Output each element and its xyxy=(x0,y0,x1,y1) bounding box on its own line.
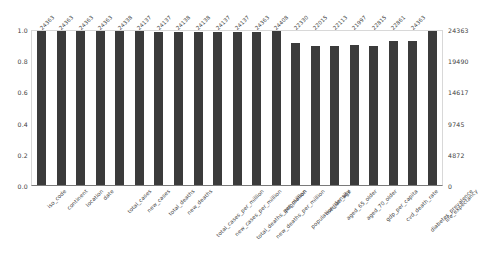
y-tick-left-1.0: 1.0 xyxy=(0,27,28,34)
bar[interactable]: 24363 xyxy=(37,31,46,185)
bar-slot: 24408 xyxy=(266,31,286,185)
bar[interactable]: 22861 xyxy=(389,41,398,185)
x-label-slot: total_deaths xyxy=(149,187,169,260)
bar-slot: 24137 xyxy=(227,31,247,185)
bar[interactable]: 24138 xyxy=(194,32,203,185)
bar-value-label: 22113 xyxy=(331,14,348,31)
bar-value-label: 24137 xyxy=(136,14,153,31)
bar-slot: 22861 xyxy=(384,31,404,185)
bar[interactable]: 24338 xyxy=(115,31,124,185)
bar[interactable]: 24363 xyxy=(252,32,261,185)
bar-value-label: 24138 xyxy=(175,14,192,31)
x-label-slot: new_deaths_per_million xyxy=(247,187,267,260)
x-label-slot: diabetes_prevalence xyxy=(404,187,424,260)
bar-slot: 22330 xyxy=(286,31,306,185)
bar-value-label: 24137 xyxy=(214,14,231,31)
x-label-slot: population_density xyxy=(286,187,306,260)
bar-slot: 24137 xyxy=(208,31,228,185)
y-tick-left-0.8: 0.8 xyxy=(0,58,28,65)
bar[interactable]: 24363 xyxy=(57,31,66,185)
bar[interactable]: 24137 xyxy=(233,32,242,185)
x-label-slot: new_cases xyxy=(129,187,149,260)
bar-value-label: 22861 xyxy=(390,14,407,31)
bar-slot xyxy=(423,31,443,185)
bar-value-label: 24408 xyxy=(273,14,290,31)
bar-slot: 24363 xyxy=(71,31,91,185)
bar-slot: 24363 xyxy=(247,31,267,185)
x-label-slot: median_age xyxy=(306,187,326,260)
bar-slot: 24363 xyxy=(403,31,423,185)
x-label-slot: new_cases_per_million xyxy=(208,187,228,260)
bar-value-label: 24363 xyxy=(78,14,95,31)
x-tick-label: life_expectancy xyxy=(444,188,479,223)
x-axis-labels: iso_codecontinentlocationdatetotal_cases… xyxy=(31,187,443,260)
bar-value-label: 24363 xyxy=(39,14,56,31)
bar[interactable]: 24137 xyxy=(213,32,222,185)
y-tick-left-0.0: 0.0 xyxy=(0,183,28,190)
bar[interactable]: 22113 xyxy=(330,46,339,185)
bar-value-label: 24363 xyxy=(410,14,427,31)
x-label-slot: iso_code xyxy=(31,187,51,260)
bar-value-label: 22330 xyxy=(292,14,309,31)
x-label-slot: life_expectancy xyxy=(424,187,444,260)
y-tick-left-0.2: 0.2 xyxy=(0,151,28,158)
bar-slot: 24138 xyxy=(188,31,208,185)
bar[interactable]: 24408 xyxy=(272,31,281,185)
bar[interactable]: 24363 xyxy=(76,31,85,185)
x-label-slot: aged_70_older xyxy=(345,187,365,260)
bar-value-label: 22015 xyxy=(312,14,329,31)
bar-value-label: 24363 xyxy=(253,14,270,31)
bar-value-label: 24363 xyxy=(58,14,75,31)
y-tick-right-14617: 14617 xyxy=(448,89,482,96)
y-tick-right-19490: 19490 xyxy=(448,58,482,65)
bar-series: 2436324363243632436324338241372413724138… xyxy=(32,31,442,185)
y-tick-right-4872: 4872 xyxy=(448,151,482,158)
bar-slot: 24363 xyxy=(52,31,72,185)
bar-value-label: 24137 xyxy=(156,14,173,31)
bar[interactable]: 24363 xyxy=(408,41,417,186)
bar[interactable]: 24138 xyxy=(174,32,183,185)
bar[interactable]: 24137 xyxy=(154,32,163,185)
bar-value-label: 24338 xyxy=(117,14,134,31)
plot-area: 2436324363243632436324338241372413724138… xyxy=(31,30,443,186)
bar-slot: 22815 xyxy=(364,31,384,185)
y-tick-left-0.6: 0.6 xyxy=(0,89,28,96)
y-tick-left-0.4: 0.4 xyxy=(0,120,28,127)
y-tick-right-9745: 9745 xyxy=(448,120,482,127)
bar-slot: 21997 xyxy=(345,31,365,185)
x-label-slot: cvd_death_rate xyxy=(384,187,404,260)
x-label-slot: new_deaths xyxy=(168,187,188,260)
bar[interactable]: 22330 xyxy=(291,43,300,185)
bar-slot: 24338 xyxy=(110,31,130,185)
bar[interactable] xyxy=(428,31,437,185)
bar[interactable]: 22815 xyxy=(369,46,378,185)
bar-slot: 22015 xyxy=(305,31,325,185)
bar[interactable]: 24363 xyxy=(96,31,105,185)
bar-value-label: 24363 xyxy=(97,14,114,31)
x-label-slot: population xyxy=(267,187,287,260)
x-label-slot: continent xyxy=(51,187,71,260)
bar-slot: 24363 xyxy=(32,31,52,185)
bar-value-label: 21997 xyxy=(351,14,368,31)
bar-slot: 22113 xyxy=(325,31,345,185)
y-tick-right-0: 0 xyxy=(448,183,482,190)
y-tick-right-24363: 24363 xyxy=(448,27,482,34)
bar-value-label: 24138 xyxy=(195,14,212,31)
bar-slot: 24363 xyxy=(91,31,111,185)
x-label-slot: date xyxy=(90,187,110,260)
bar-value-label: 22815 xyxy=(371,14,388,31)
bar[interactable]: 22015 xyxy=(311,46,320,185)
bar-slot: 24137 xyxy=(130,31,150,185)
x-label-slot: gdp_per_capita xyxy=(365,187,385,260)
bar[interactable]: 21997 xyxy=(350,45,359,185)
bar-slot: 24138 xyxy=(169,31,189,185)
bar-value-label: 24137 xyxy=(234,14,251,31)
bar[interactable]: 24137 xyxy=(135,31,144,185)
x-label-slot: aged_65_older xyxy=(325,187,345,260)
x-label-slot: total_deaths_per_million xyxy=(227,187,247,260)
x-label-slot: location xyxy=(70,187,90,260)
bar-slot: 24137 xyxy=(149,31,169,185)
x-label-slot: total_cases xyxy=(110,187,130,260)
x-label-slot: total_cases_per_million xyxy=(188,187,208,260)
